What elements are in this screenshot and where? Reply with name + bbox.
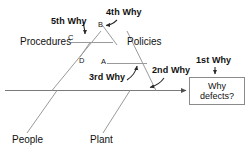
- bone-plant: [103, 91, 130, 134]
- pointer-3rd-why: [127, 66, 137, 80]
- problem-statement-line-2: defects?: [200, 91, 234, 101]
- category-label-people: People: [12, 135, 43, 145]
- annotation-3rd-why: 3rd Why: [89, 73, 125, 82]
- problem-statement-line-1: Why: [208, 81, 226, 91]
- bone-people: [27, 91, 57, 134]
- problem-statement-box: Why defects?: [189, 77, 245, 105]
- twig-d: [80, 43, 90, 58]
- category-label-policies: Policies: [127, 37, 161, 47]
- pointer-4th-why: [106, 20, 117, 26]
- point-label-b: B: [98, 21, 103, 29]
- category-label-plant: Plant: [90, 135, 113, 145]
- fishbone-diagram-canvas: 5th Why 4th Why 3rd Why 2nd Why 1st Why …: [0, 0, 251, 153]
- point-label-d: D: [79, 57, 84, 65]
- annotation-4th-why: 4th Why: [106, 8, 142, 17]
- point-label-c: C: [68, 34, 73, 42]
- annotation-5th-why: 5th Why: [51, 17, 87, 26]
- category-label-procedures: Procedures: [20, 37, 71, 47]
- annotation-1st-why: 1st Why: [196, 56, 231, 65]
- point-label-a: A: [101, 58, 106, 66]
- annotation-2nd-why: 2nd Why: [152, 66, 190, 75]
